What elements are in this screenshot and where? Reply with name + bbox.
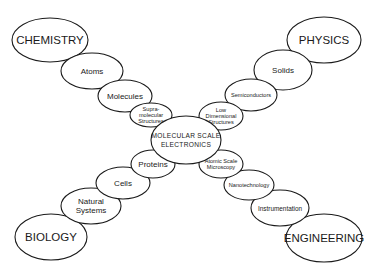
- diagram-canvas: CHEMISTRYAtomsMoleculesSupra-molecularSt…: [0, 0, 374, 271]
- node-label: Microscopy: [207, 164, 235, 170]
- node-label: Atoms: [81, 67, 104, 76]
- node-label: Dimensional: [206, 113, 237, 119]
- node-label: Atomic Scale: [205, 158, 238, 164]
- node-label: Supra-: [143, 106, 160, 112]
- node-label: PHYSICS: [299, 34, 350, 46]
- molecular-electronics-diagram: CHEMISTRYAtomsMoleculesSupra-molecularSt…: [0, 0, 374, 271]
- node-label: Instrumentation: [258, 205, 302, 212]
- node-label: Cells: [114, 179, 132, 188]
- node-label: ENGINEERING: [284, 232, 365, 244]
- node-label: molecular: [139, 112, 163, 118]
- node-label: Molecules: [107, 92, 143, 101]
- node-label: Systems: [76, 206, 107, 215]
- diagram-nodes: CHEMISTRYAtomsMoleculesSupra-molecularSt…: [12, 17, 364, 262]
- node-label: MOLECULAR SCALE: [152, 132, 221, 139]
- node-label: Nanotechnology: [229, 182, 270, 188]
- node-label: CHEMISTRY: [16, 34, 84, 46]
- node-label: Natural: [78, 197, 104, 206]
- node-label: BIOLOGY: [25, 231, 77, 243]
- node-label: Low: [216, 107, 227, 113]
- node-center: MOLECULAR SCALEELECTRONICS: [151, 116, 221, 164]
- node-label: Proteins: [138, 160, 167, 169]
- node-label: Solids: [272, 66, 294, 75]
- node-label: ELECTRONICS: [161, 141, 211, 148]
- node-label: Semiconductors: [231, 92, 271, 98]
